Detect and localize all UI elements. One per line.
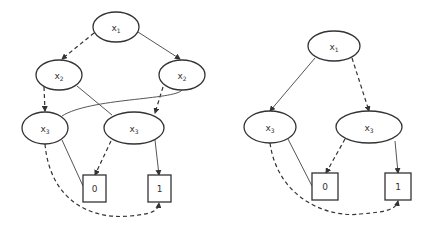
edge-x2a-x3b-high [77,86,112,115]
node-x2-left: x2 [36,60,82,90]
edge-x3b-t1-high [155,140,159,175]
right-diagram: x1 x3 x3 0 1 [244,31,411,215]
node-x1: x1 [93,12,139,42]
node-x1: x1 [308,31,360,61]
svg-text:0: 0 [322,182,328,192]
svg-text:1: 1 [157,184,163,194]
edge-x2b-x3a-high [62,90,182,116]
terminal-1: 1 [385,173,411,200]
edge-x2b-x3b-low [155,87,163,113]
node-x3-right: x3 [104,112,164,144]
edge-x1-x2b-high [138,32,180,59]
left-diagram: x1 x2 x2 x3 x3 0 1 [22,12,205,216]
edge-x3b-t0-low [326,139,345,173]
node-x3-right: x3 [336,111,402,143]
edge-x1-x3a-high [270,58,315,111]
bdd-diagrams: x1 x2 x2 x3 x3 0 1 [0,0,431,229]
svg-text:0: 0 [92,184,98,194]
terminal-0: 0 [312,173,338,200]
edge-x1-x2a-low [62,33,94,59]
terminal-1: 1 [148,175,171,202]
node-x3-left: x3 [244,111,296,143]
terminal-0: 0 [83,175,106,202]
node-x3-left: x3 [22,112,68,144]
edge-x3b-t0-low [95,141,111,175]
edge-x3a-t0-high [62,140,83,186]
svg-text:1: 1 [395,182,401,192]
edge-x3b-t1-high [395,141,398,173]
edge-x1-x3b-low [352,58,369,111]
node-x2-right: x2 [159,60,205,90]
edge-x3a-t0-high [288,139,312,186]
edge-x2a-x3a-low [44,87,45,111]
